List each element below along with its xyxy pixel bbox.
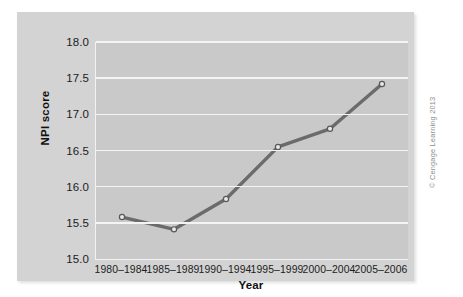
x-tick-label: 2005–2006 xyxy=(355,264,408,275)
data-point-marker xyxy=(327,126,332,131)
y-tick-label: 15.5 xyxy=(66,217,89,229)
chart-figure-panel: 15.015.516.016.517.017.518.0 1980–198419… xyxy=(17,12,414,281)
y-tick-label: 15.0 xyxy=(66,253,89,265)
data-point-marker xyxy=(223,196,228,201)
y-tick-label: 18.0 xyxy=(66,36,89,48)
gridline xyxy=(96,114,408,116)
data-series-line xyxy=(122,84,382,229)
y-axis-tick-labels: 15.015.516.016.517.017.518.0 xyxy=(45,42,89,259)
data-point-marker xyxy=(379,81,384,86)
y-tick-label: 16.0 xyxy=(66,181,89,193)
x-tick-label: 2000–2004 xyxy=(303,264,356,275)
x-tick-label: 1990–1994 xyxy=(199,264,252,275)
plot-area xyxy=(95,42,408,260)
gridline xyxy=(96,150,408,152)
x-tick-label: 1980–1984 xyxy=(95,264,148,275)
gridline xyxy=(96,222,408,224)
gridline xyxy=(96,41,408,43)
y-tick-label: 17.5 xyxy=(66,72,89,84)
figure-root: 15.015.516.016.517.017.518.0 1980–198419… xyxy=(0,0,463,297)
y-axis-title: NPI score xyxy=(39,63,51,173)
gridline xyxy=(96,186,408,188)
y-tick-label: 16.5 xyxy=(66,145,89,157)
data-point-marker xyxy=(275,144,280,149)
x-axis-title: Year xyxy=(95,279,407,291)
data-point-marker xyxy=(171,227,176,232)
x-tick-label: 1995–1999 xyxy=(251,264,304,275)
data-point-markers xyxy=(119,81,384,232)
y-tick-label: 17.0 xyxy=(66,108,89,120)
x-axis-tick-labels: 1980–19841985–19891990–19941995–19992000… xyxy=(95,264,407,280)
copyright-credit: © Cengage Learning 2013 xyxy=(428,97,437,188)
gridline xyxy=(96,77,408,79)
x-tick-label: 1985–1989 xyxy=(147,264,200,275)
data-point-marker xyxy=(119,214,124,219)
